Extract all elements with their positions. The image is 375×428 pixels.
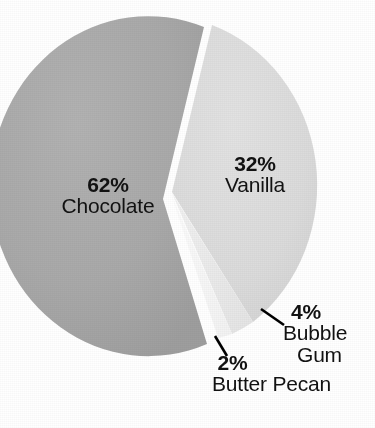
slice-name-chocolate: Chocolate: [38, 195, 178, 216]
slice-label-vanilla: 32% Vanilla: [196, 153, 314, 196]
slice-percent-butter-pecan: 2%: [176, 352, 375, 373]
slice-name-vanilla: Vanilla: [196, 174, 314, 195]
slice-percent-vanilla: 32%: [196, 153, 314, 174]
slice-label-butter-pecan: 2% Butter Pecan: [176, 352, 375, 395]
slice-percent-bubble-gum: 4%: [283, 301, 375, 322]
pie-chart: 62% Chocolate 32% Vanilla 4% Bubble Gum …: [0, 0, 375, 428]
slice-name-bubble-gum-line1: Bubble: [283, 322, 375, 343]
leader-line-bubble-gum: [261, 309, 284, 325]
slice-name-butter-pecan: Butter Pecan: [176, 373, 375, 394]
slice-percent-chocolate: 62%: [38, 174, 178, 195]
slice-label-chocolate: 62% Chocolate: [38, 174, 178, 217]
